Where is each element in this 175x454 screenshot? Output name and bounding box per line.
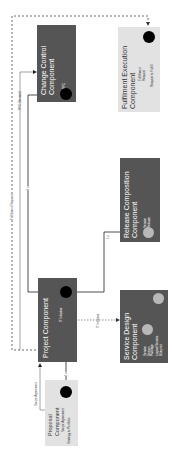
service-design-package-data-object-icon [142, 324, 153, 335]
it-initiative-edge-label: IT Initiative [96, 314, 100, 328]
release-composition-component[interactable]: Release CompositionComponent ServiceRele… [120, 158, 160, 242]
scope-agreement-edge-label: Scope Agreement [34, 382, 38, 406]
scope-agreement-data-object-icon [60, 386, 72, 398]
release-composition-title: Release CompositionComponent [123, 171, 139, 238]
service-design-title: Service DesignComponent [123, 313, 139, 360]
it-initiative-label: IT Initiative [60, 308, 64, 322]
rfc-normal-edge-label: RFC (Normal) [18, 91, 22, 110]
service-release-data-object-icon [143, 227, 154, 238]
fulfilment-execution-title: Fulfilment ExecutionComponent [121, 46, 137, 109]
one-to-many-label-3: 1:n [64, 372, 68, 376]
it-initiative-data-object-icon [60, 286, 72, 298]
project-title: Project Component [42, 298, 50, 358]
one-to-many-label-4: 1:n [148, 314, 152, 318]
fulfillment-request-data-object-icon [143, 31, 155, 43]
one-to-many-label-1: 1:n [26, 186, 30, 190]
logical-service-blueprint-data-object-icon [153, 293, 164, 304]
request-to-fulfill-label: Request to Fulfill [151, 65, 155, 87]
fulfillment-request-edge-label: Fulfillment Request [10, 194, 14, 220]
scope-agreement-item-label: Scope Agreement [62, 408, 66, 432]
service-design-package-label: ServiceDesignPackage [144, 344, 155, 356]
rfc-data-object-icon [60, 88, 72, 100]
strategy-to-portfolio-label: Strategy to Portfolio [68, 418, 72, 444]
change-control-title: Change ControlComponent [40, 46, 56, 95]
logical-service-blueprint-label: Logical ServiceBlueprint [156, 336, 163, 356]
fulfillment-request-label: FulfillmentRequest [139, 67, 146, 81]
proposal-title: ProposalComponent [47, 408, 60, 436]
one-to-many-label-2: 1:n [106, 235, 110, 239]
